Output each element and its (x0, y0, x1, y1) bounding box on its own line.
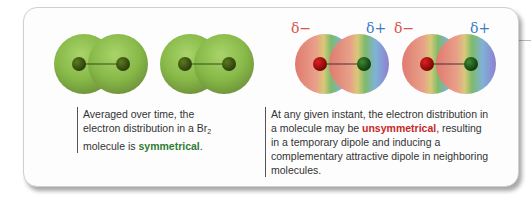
symmetric-molecule-1 (52, 32, 150, 96)
caption-text: molecule is (83, 140, 138, 152)
symmetric-molecule-2 (158, 32, 256, 96)
caption-text: . (200, 140, 203, 152)
unsymmetrical-highlight: unsymmetrical (362, 122, 436, 134)
symmetric-caption: Averaged over time, the electron distrib… (77, 107, 233, 153)
subscript-2: 2 (207, 128, 211, 135)
caption-text: Averaged over time, the electron distrib… (83, 108, 207, 134)
dipole-molecule-2 (400, 32, 498, 96)
dipole-molecule-1 (293, 32, 391, 96)
symmetrical-highlight: symmetrical (138, 140, 199, 152)
delta-plus-label-1: δ+ (366, 20, 386, 36)
unsymmetric-caption: At any given instant, the electron distr… (265, 107, 491, 177)
delta-minus-label-2: δ− (394, 20, 414, 36)
delta-minus-label-1: δ− (291, 20, 311, 36)
delta-plus-label-2: δ+ (470, 20, 490, 36)
